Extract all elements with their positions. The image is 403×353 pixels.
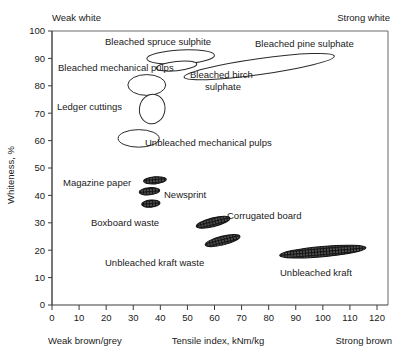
y-tick-label: 40 (34, 190, 45, 201)
y-tick-label: 70 (34, 108, 45, 119)
y-tick-label: 30 (34, 217, 45, 228)
chart-container: 0102030405060708090100010203040506070809… (0, 0, 403, 353)
series-label: Bleached birch (190, 69, 253, 80)
data-ellipse (137, 92, 167, 126)
data-ellipse (139, 187, 160, 196)
y-tick-label: 100 (29, 25, 45, 36)
x-tick-label: 60 (209, 312, 220, 323)
series-labels: Bleached spruce sulphiteBleached birchsu… (57, 36, 354, 278)
series-label: Unbleached kraft waste (105, 257, 204, 268)
series-label-line2: sulphate (205, 81, 241, 92)
data-ellipse (141, 199, 160, 208)
x-tick-label: 120 (369, 312, 385, 323)
y-tick-label: 90 (34, 53, 45, 64)
series-label: Magazine paper (63, 177, 131, 188)
data-ellipse (279, 243, 366, 261)
series-label: Unbleached mechanical pulps (145, 137, 272, 148)
series-label: Bleached mechanical pulps (58, 62, 174, 73)
corner-label-strong-brown: Strong brown (335, 335, 392, 346)
series-label: Bleached pine sulphate (255, 38, 354, 49)
data-ellipse (128, 75, 166, 96)
series-label: Ledger cuttings (57, 101, 122, 112)
corner-label-weak-white: Weak white (52, 12, 101, 23)
x-tick-label: 0 (49, 312, 54, 323)
y-axis-title: Whiteness, % (5, 145, 16, 204)
y-tick-label: 10 (34, 272, 45, 283)
x-tick-label: 10 (74, 312, 85, 323)
x-tick-label: 100 (315, 312, 331, 323)
data-ellipses (118, 48, 366, 260)
corner-label-weak-brown-grey: Weak brown/grey (48, 335, 122, 346)
data-ellipse (204, 232, 241, 249)
series-label: Unbleached kraft (280, 267, 352, 278)
x-tick-label: 80 (263, 312, 274, 323)
series-label: Boxboard waste (91, 217, 159, 228)
x-tick-label: 90 (290, 312, 301, 323)
y-tick-label: 60 (34, 135, 45, 146)
data-ellipse (143, 176, 166, 185)
corner-label-strong-white: Strong white (337, 12, 390, 23)
x-tick-label: 110 (342, 312, 357, 323)
whiteness-vs-tensile-index-chart: 0102030405060708090100010203040506070809… (0, 0, 403, 353)
x-tick-label: 70 (236, 312, 247, 323)
x-axis-title: Tensile index, kNm/kg (172, 335, 264, 346)
y-tick-label: 50 (34, 162, 45, 173)
y-tick-label: 20 (34, 245, 45, 256)
series-label: Newsprint (164, 189, 207, 200)
x-tick-label: 20 (101, 312, 112, 323)
x-tick-label: 50 (182, 312, 193, 323)
y-tick-label: 0 (40, 299, 45, 310)
data-ellipse (195, 214, 231, 231)
series-label: Bleached spruce sulphite (105, 36, 211, 47)
y-tick-label: 80 (34, 80, 45, 91)
series-label: Corrugated board (227, 210, 301, 221)
x-tick-label: 40 (155, 312, 166, 323)
x-tick-label: 30 (128, 312, 139, 323)
